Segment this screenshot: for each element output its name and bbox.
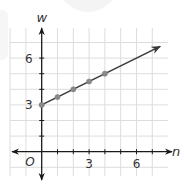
axis-labels: 3636Onw [25, 10, 180, 171]
data-point [55, 95, 60, 100]
line-chart: 3636Onw [0, 0, 184, 190]
origin-label: O [25, 155, 34, 169]
x-axis-label: n [172, 144, 180, 159]
y-tick-label: 3 [25, 98, 33, 112]
y-tick-label: 6 [25, 52, 33, 66]
x-tick-label: 6 [133, 157, 141, 171]
y-axis-label: w [36, 10, 47, 25]
data-point [71, 87, 76, 92]
data-point [87, 79, 92, 84]
x-tick-label: 3 [85, 157, 93, 171]
data-point [102, 71, 107, 76]
data-point [39, 102, 44, 107]
